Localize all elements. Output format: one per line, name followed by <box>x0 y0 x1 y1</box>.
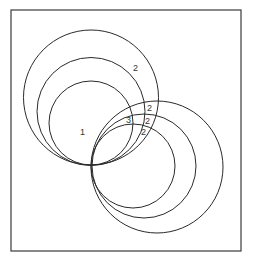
upper-left-circle-1 <box>24 30 159 165</box>
region-label-3: 2 <box>147 103 152 113</box>
region-label-5: 2 <box>145 116 150 126</box>
lower-right-circle-1 <box>91 124 175 208</box>
upper-left-circle-3 <box>49 81 133 165</box>
circles-diagram: 122322 <box>0 0 254 262</box>
region-label-4: 3 <box>126 115 131 125</box>
upper-left-circle-group <box>24 30 159 166</box>
region-labels: 122322 <box>80 63 152 137</box>
lower-right-circle-group <box>91 101 223 233</box>
region-label-1: 1 <box>80 127 85 137</box>
region-label-2: 2 <box>133 63 138 73</box>
region-label-6: 2 <box>141 127 146 137</box>
upper-left-circle-2 <box>37 58 145 166</box>
lower-right-circle-3 <box>91 101 223 233</box>
